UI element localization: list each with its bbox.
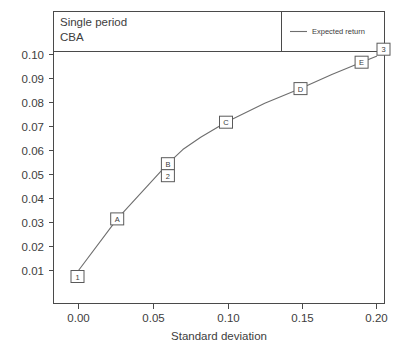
chart-figure: Single period CBA Expected return: [0, 0, 406, 348]
title-line-1: Single period: [60, 16, 127, 28]
point-marker-label: 1: [75, 273, 79, 282]
point-marker-label: 2: [166, 172, 170, 181]
y-tick-label: 0.08: [22, 97, 44, 109]
point-marker: 3: [377, 43, 390, 55]
point-marker-label: 3: [381, 45, 385, 54]
point-marker: D: [294, 83, 307, 95]
point-marker: 2: [161, 170, 174, 182]
point-marker: C: [220, 116, 233, 128]
x-tick-label: 0.10: [217, 312, 239, 324]
y-tick-label: 0.05: [22, 169, 44, 181]
title-line-2: CBA: [60, 31, 84, 43]
point-marker-label: C: [223, 118, 229, 127]
chart-canvas: Single period CBA Expected return: [0, 0, 406, 348]
plot-frame: [54, 52, 385, 304]
point-marker-label: D: [298, 85, 304, 94]
y-tick-label: 0.06: [22, 145, 44, 157]
point-marker: A: [111, 213, 124, 225]
point-marker-label: B: [165, 160, 170, 169]
point-marker-label: A: [115, 215, 120, 224]
x-tick-label: 0.15: [291, 312, 313, 324]
point-marker: E: [355, 56, 368, 68]
y-axis-tick-labels: 0.01 0.02 0.03 0.04 0.05 0.06 0.07 0.08 …: [22, 49, 45, 277]
y-tick-label: 0.07: [22, 121, 44, 133]
legend: Expected return: [290, 27, 365, 36]
point-marker-label: E: [359, 58, 364, 67]
expected-return-line: [79, 56, 377, 270]
y-tick-label: 0.09: [22, 73, 44, 85]
x-tick-label: 0.00: [67, 312, 89, 324]
x-tick-label: 0.05: [142, 312, 164, 324]
y-tick-label: 0.01: [22, 265, 44, 277]
y-tick-label: 0.04: [22, 193, 45, 205]
legend-label-expected-return: Expected return: [312, 27, 365, 36]
point-marker: B: [161, 158, 174, 170]
y-tick-label: 0.10: [22, 49, 44, 61]
y-axis-ticks: [49, 55, 54, 271]
x-axis-ticks: [79, 304, 377, 309]
point-markers-group: 1AB2CDE3: [71, 43, 390, 282]
x-axis-tick-labels: 0.00 0.05 0.10 0.15 0.20: [67, 312, 387, 324]
y-tick-label: 0.02: [22, 241, 44, 253]
x-axis-title: Standard deviation: [171, 330, 267, 342]
data-series-group: [79, 56, 377, 270]
chart-title-block: Single period CBA: [60, 16, 127, 43]
point-marker: 1: [71, 271, 84, 283]
x-tick-label: 0.20: [365, 312, 387, 324]
y-tick-label: 0.03: [22, 217, 44, 229]
